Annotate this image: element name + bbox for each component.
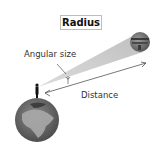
distant-planet-icon	[130, 32, 150, 52]
angular-size-label: Angular size	[24, 49, 76, 59]
angular-cone	[38, 33, 143, 87]
distance-label: Distance	[81, 90, 118, 100]
earth-icon	[15, 98, 59, 142]
diagram-title: Radius	[60, 15, 102, 30]
observer-person-icon	[35, 83, 38, 98]
